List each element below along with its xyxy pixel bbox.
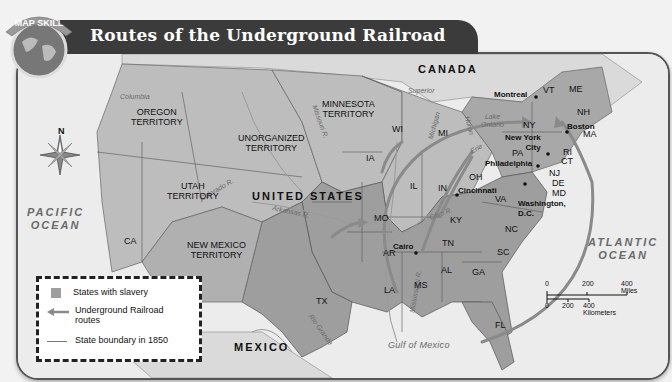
city-label-montreal: Montreal: [494, 90, 527, 100]
scale-km-400: 400 Kilometers: [583, 302, 616, 316]
country-label-united-states: UNITED STATES: [252, 190, 364, 202]
state-label-md: MD: [552, 188, 566, 198]
city-label-washington: Washington, D.C.: [518, 199, 566, 219]
new-york-line2: City: [505, 143, 541, 153]
state-label-ri: RI: [563, 147, 572, 157]
city-label-new-york: New York City: [505, 133, 541, 153]
badge-label: MAP SKILL: [15, 18, 64, 28]
compass-rose-icon: [40, 135, 80, 175]
oregon-line1: OREGON: [131, 107, 183, 117]
unorganized-line1: UNORGANIZED: [238, 133, 305, 143]
washington-line2: D.C.: [518, 209, 566, 219]
state-label-la: LA: [384, 285, 395, 295]
washington-line1: Washington,: [518, 199, 566, 209]
country-label-canada: CANADA: [418, 63, 478, 75]
oregon-territory-label: OREGON TERRITORY: [131, 107, 183, 127]
scale-miles-400: 400 Miles: [621, 280, 637, 294]
state-label-sc: SC: [497, 247, 510, 257]
city-label-cairo: Cairo: [393, 242, 413, 252]
state-label-va: VA: [495, 194, 506, 204]
scale-km-200: 200: [562, 302, 574, 309]
state-label-il: IL: [410, 181, 418, 191]
state-label-tn: TN: [442, 238, 454, 248]
scale-miles-0: 0: [545, 280, 549, 287]
scale-miles-200: 200: [582, 280, 594, 287]
new-mexico-line2: TERRITORY: [187, 250, 246, 260]
state-label-ky: KY: [450, 215, 462, 225]
gulf-of-mexico-label: Gulf of Mexico: [388, 339, 450, 352]
utah-territory-label: UTAH TERRITORY: [167, 181, 219, 201]
state-label-nc: NC: [505, 224, 518, 234]
minnesota-territory-label: MINNESOTA TERRITORY: [322, 99, 375, 119]
state-label-ca: CA: [124, 236, 137, 246]
unorganized-line2: TERRITORY: [238, 143, 305, 153]
pacific-line2: OCEAN: [27, 219, 84, 232]
unorganized-territory-label: UNORGANIZED TERRITORY: [238, 133, 305, 153]
state-label-ia: IA: [366, 153, 375, 163]
atlantic-line1: ATLANTIC: [588, 236, 658, 249]
utah-line2: TERRITORY: [167, 191, 219, 201]
state-label-nj: NJ: [549, 168, 560, 178]
columbia-river-label: Columbia: [120, 93, 150, 100]
pacific-line1: PACIFIC: [27, 206, 84, 219]
legend-routes-line1: Underground Railroad: [75, 305, 164, 315]
route-arrow-icon: [47, 308, 69, 316]
state-label-al: AL: [441, 265, 452, 275]
map-title: Routes of the Underground Railroad: [90, 25, 446, 45]
state-label-mi: MI: [438, 128, 448, 138]
city-label-boston: Boston: [567, 122, 595, 132]
state-label-nh: NH: [577, 107, 590, 117]
state-label-me: ME: [569, 84, 583, 94]
state-label-ga: GA: [472, 267, 485, 277]
state-label-ny: NY: [523, 120, 536, 130]
atlantic-ocean-label: ATLANTIC OCEAN: [588, 236, 658, 262]
atlantic-line2: OCEAN: [588, 249, 658, 262]
map-legend: States with slavery Underground Railroad…: [36, 276, 202, 362]
state-label-mo: MO: [374, 213, 389, 223]
pacific-ocean-label: PACIFIC OCEAN: [27, 206, 84, 232]
state-label-tx: TX: [316, 296, 328, 306]
oregon-line2: TERRITORY: [131, 117, 183, 127]
scale-km-0: 0: [545, 302, 549, 309]
new-mexico-line1: NEW MEXICO: [187, 240, 246, 250]
legend-routes-line2: routes: [75, 315, 164, 325]
city-label-philadelphia: Philadelphia: [485, 159, 532, 169]
lake-ontario-line1: Lake: [481, 113, 504, 121]
state-label-ct: CT: [561, 156, 573, 166]
legend-item-routes: Underground Railroad routes: [47, 305, 164, 325]
city-label-cincinnati: Cincinnati: [458, 186, 497, 196]
legend-boundary-label: State boundary in 1850: [75, 335, 168, 345]
country-label-mexico: MEXICO: [234, 341, 289, 353]
minnesota-line2: TERRITORY: [322, 109, 375, 119]
legend-slavery-label: States with slavery: [73, 287, 148, 297]
state-label-oh: OH: [469, 172, 483, 182]
lake-superior-label: Superior: [408, 87, 434, 94]
new-mexico-territory-label: NEW MEXICO TERRITORY: [187, 240, 246, 260]
new-york-line1: New York: [505, 133, 541, 143]
state-label-wi: WI: [392, 124, 403, 134]
map-skill-badge: MAP SKILL: [4, 6, 74, 80]
state-label-de: DE: [552, 178, 565, 188]
minnesota-line1: MINNESOTA: [322, 99, 375, 109]
globe-icon: [12, 23, 66, 77]
state-label-in: IN: [438, 183, 447, 193]
state-label-vt: VT: [543, 85, 555, 95]
utah-line1: UTAH: [167, 181, 219, 191]
slave-state-swatch-icon: [51, 288, 61, 298]
state-label-fl: FL: [495, 320, 506, 330]
legend-item-boundary: State boundary in 1850: [47, 335, 168, 345]
legend-item-slavery: States with slavery: [47, 287, 148, 298]
lake-ontario-label: Lake Ontario: [481, 113, 504, 129]
boundary-line-icon: [47, 341, 67, 342]
lake-ontario-line2: Ontario: [481, 121, 504, 129]
state-label-ms: MS: [414, 280, 428, 290]
